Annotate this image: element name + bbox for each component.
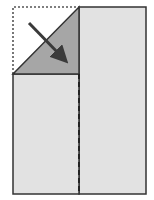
paper-fold-diagram [0,0,154,200]
paper-right-panel [79,7,146,194]
paper-left-panel [13,74,79,194]
